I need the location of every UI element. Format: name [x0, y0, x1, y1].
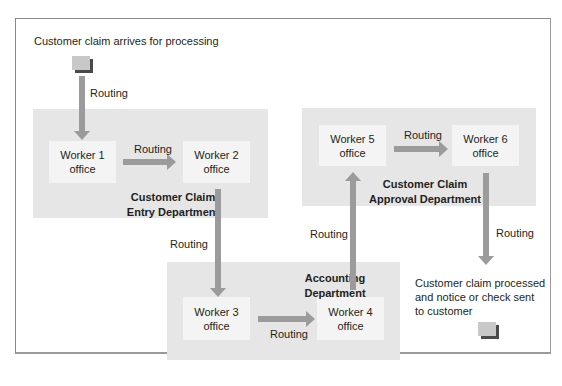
end-label-line: Customer claim processed	[415, 276, 545, 290]
routing-label-6: Routing	[404, 128, 442, 142]
arrow-start-to-w1	[79, 76, 85, 132]
dept-label-line: Approval Department	[360, 192, 490, 207]
end-label-line: to customer	[415, 304, 545, 318]
arrow-w4-to-w5	[350, 181, 356, 290]
office-suffix: office	[337, 319, 363, 333]
office-name: Worker 3	[194, 305, 238, 319]
office-suffix: office	[472, 146, 498, 160]
arrow-w3-to-w4	[258, 316, 306, 322]
routing-label-1: Routing	[90, 86, 128, 100]
office-suffix: office	[69, 162, 95, 176]
office-worker-2: Worker 2 office	[183, 141, 250, 183]
arrow-w6-to-end	[483, 173, 489, 257]
office-worker-1: Worker 1 office	[49, 141, 116, 183]
office-name: Worker 4	[328, 305, 372, 319]
office-worker-3: Worker 3 office	[183, 297, 250, 340]
arrow-w1-to-w2	[123, 159, 167, 165]
office-suffix: office	[203, 162, 229, 176]
processed-document-icon	[478, 322, 496, 336]
office-worker-6: Worker 6 office	[452, 125, 519, 166]
arrow-head-up-icon	[345, 172, 361, 181]
office-suffix: office	[339, 146, 365, 160]
arrow-head-down-icon	[74, 131, 90, 140]
end-label-line: and notice or check sent	[415, 290, 545, 304]
arrow-head-down-icon	[478, 256, 494, 265]
arrow-head-right-icon	[167, 154, 176, 170]
routing-label-7: Routing	[496, 226, 534, 240]
routing-label-2: Routing	[134, 142, 172, 156]
routing-label-5: Routing	[310, 227, 348, 241]
dept-label-line: Customer Claim	[360, 177, 490, 192]
claim-document-icon	[72, 56, 90, 70]
office-suffix: office	[203, 319, 229, 333]
office-name: Worker 1	[60, 148, 104, 162]
office-worker-5: Worker 5 office	[319, 125, 386, 166]
dept-label-line: Department	[300, 286, 370, 301]
office-worker-4: Worker 4 office	[317, 297, 384, 340]
arrow-w2-to-w3	[215, 189, 221, 289]
arrow-head-right-icon	[439, 141, 448, 157]
arrow-w5-to-w6	[394, 146, 439, 152]
arrow-head-right-icon	[306, 311, 315, 327]
routing-label-4: Routing	[270, 327, 308, 341]
department-accounting-label: Accounting Department	[300, 271, 370, 301]
dept-label-line: Accounting	[300, 271, 370, 286]
arrow-head-down-icon	[210, 288, 226, 297]
office-name: Worker 5	[330, 132, 374, 146]
department-approval-label: Customer Claim Approval Department	[360, 177, 490, 207]
end-label: Customer claim processed and notice or c…	[415, 276, 545, 318]
start-label: Customer claim arrives for processing	[34, 34, 219, 48]
office-name: Worker 2	[194, 148, 238, 162]
office-name: Worker 6	[463, 132, 507, 146]
routing-label-3: Routing	[170, 237, 208, 251]
